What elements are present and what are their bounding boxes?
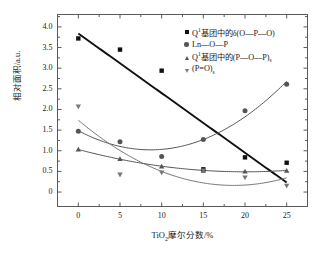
x-tick-label: 10	[151, 211, 173, 220]
data-point-marker	[118, 139, 123, 144]
data-point-marker	[284, 82, 289, 87]
legend-label-body: =O)	[199, 64, 212, 73]
y-tick-label: 0	[31, 187, 53, 196]
y-tick-label: 3.5	[31, 43, 53, 52]
square-marker-icon	[185, 30, 189, 34]
x-tick-label: 5	[109, 211, 131, 220]
y-tick-label: 1.0	[31, 146, 53, 155]
data-point-marker	[159, 154, 164, 159]
legend-circle-icon	[181, 42, 192, 47]
triangle-up-marker-icon	[185, 56, 189, 60]
data-point-marker	[201, 137, 206, 142]
data-point-marker	[284, 161, 288, 165]
legend-label-sub: s	[213, 69, 215, 75]
x-tick-label: 0	[67, 211, 89, 220]
legend-item-label: Q1基团中的(P—O—P)s	[192, 50, 272, 65]
x-axis-title-rest: 摩尔分数/%	[168, 230, 213, 240]
x-tick-label: 15	[192, 211, 214, 220]
legend-item-label: Ln—O—P	[192, 40, 228, 49]
x-axis-title: TiO2摩尔分数/%	[57, 228, 308, 242]
legend-label-body: 基团中的δ(O—P—O)	[201, 28, 275, 37]
chart-figure: 相对面积/a.u. TiO2摩尔分数/% 4.03.53.02.52.01.51…	[0, 0, 325, 253]
data-point-marker	[243, 155, 247, 159]
y-axis-title: 相对面积/a.u.	[10, 28, 22, 124]
legend-item-label: Q1基团中的δ(O—P—O)	[192, 26, 275, 38]
legend-triangle-up-icon	[181, 56, 192, 60]
data-point-marker	[118, 47, 122, 51]
y-tick-label: 4.0	[31, 22, 53, 31]
legend-label-prefix: Ln—O—P	[192, 40, 228, 49]
legend-item-label: (P=O)s	[192, 64, 215, 77]
y-tick-label: 1.5	[31, 125, 53, 134]
data-point-marker	[76, 129, 81, 134]
legend-label-sub: s	[270, 57, 272, 63]
legend-square-icon	[181, 30, 192, 34]
x-tick-label: 20	[234, 211, 256, 220]
triangle-down-marker-icon	[185, 69, 189, 73]
x-tick-label: 25	[276, 211, 298, 220]
legend-label-body: 基团中的(P—O—P)	[201, 53, 270, 62]
y-tick-label: 3.0	[31, 63, 53, 72]
chart-legend: Q1基团中的δ(O—P—O)Ln—O—PQ1基团中的(P—O—P)s(P=O)s	[181, 25, 313, 77]
legend-item: (P=O)s	[181, 64, 313, 77]
y-tick-label: 2.5	[31, 84, 53, 93]
data-point-marker	[243, 108, 248, 113]
data-point-marker	[76, 36, 80, 40]
legend-item: Q1基团中的δ(O—P—O)	[181, 25, 313, 38]
y-tick-label: 0.5	[31, 166, 53, 175]
x-axis-title-main: TiO	[152, 230, 165, 240]
legend-triangle-down-icon	[181, 69, 192, 73]
data-point-marker	[159, 68, 163, 72]
y-tick-label: 2.0	[31, 104, 53, 113]
legend-item: Q1基团中的(P—O—P)s	[181, 51, 313, 64]
circle-marker-icon	[184, 42, 189, 47]
